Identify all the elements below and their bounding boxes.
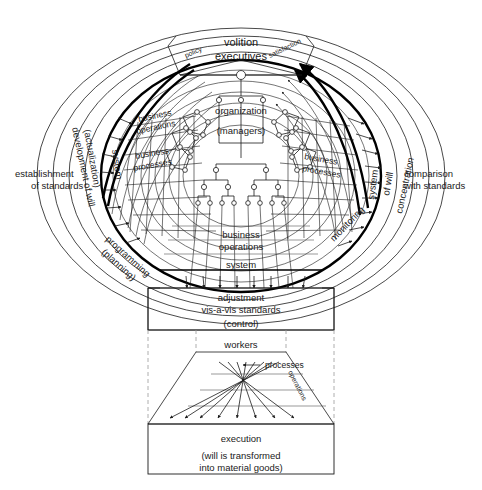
label-workers: workers bbox=[223, 339, 258, 350]
ring-monitoring: monitoring bbox=[328, 204, 367, 244]
diagram-canvas: establishment of standards comparison wi… bbox=[0, 0, 482, 490]
label-execution-sub1: (will is transformed bbox=[201, 450, 280, 461]
ring-concentration-sub: of will bbox=[380, 171, 395, 196]
label-bo-lower-2: operations bbox=[219, 241, 264, 252]
label-adjustment: adjustment bbox=[218, 292, 265, 303]
label-satisfaction: satisfaction bbox=[267, 37, 302, 59]
label-volition: volition bbox=[224, 36, 258, 48]
text-layer: establishment of standards comparison wi… bbox=[0, 0, 482, 490]
label-managers: (managers) bbox=[217, 125, 266, 136]
label-comparison-line2: with standards bbox=[403, 180, 466, 191]
label-bo-lower-1: business bbox=[222, 229, 260, 240]
label-execution-sub2: into material goods) bbox=[199, 462, 282, 473]
label-organization: organization bbox=[215, 105, 267, 116]
label-policy: policy bbox=[184, 45, 204, 60]
label-control: (control) bbox=[224, 318, 259, 329]
label-bo-lower-3: system bbox=[226, 259, 256, 270]
label-executives: executives bbox=[215, 50, 267, 62]
label-vis-a-vis: vis-a-vis standards bbox=[201, 304, 280, 315]
label-execution: execution bbox=[221, 433, 262, 444]
ring-right-system: system bbox=[365, 169, 380, 200]
label-establishment-line2: of standards bbox=[31, 180, 84, 191]
label-operations: operations bbox=[286, 369, 308, 402]
label-processes: processes bbox=[265, 360, 304, 370]
ring-left-system: system bbox=[110, 149, 125, 180]
label-establishment-line1: establishment bbox=[15, 168, 74, 179]
